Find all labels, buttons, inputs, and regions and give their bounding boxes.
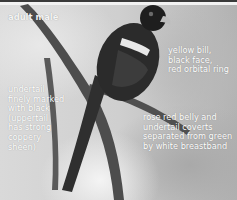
bird-photo-frame: adult male yellow bill, black face, red … xyxy=(0,0,237,200)
label-belly: rose red belly and undertail coverts sep… xyxy=(143,113,232,151)
label-head-features: yellow bill, black face, red orbital rin… xyxy=(168,46,229,75)
bird-eye xyxy=(149,12,153,16)
label-undertail: undertail finely marked with black (uppe… xyxy=(8,85,64,152)
label-adult-male: adult male xyxy=(8,13,58,23)
